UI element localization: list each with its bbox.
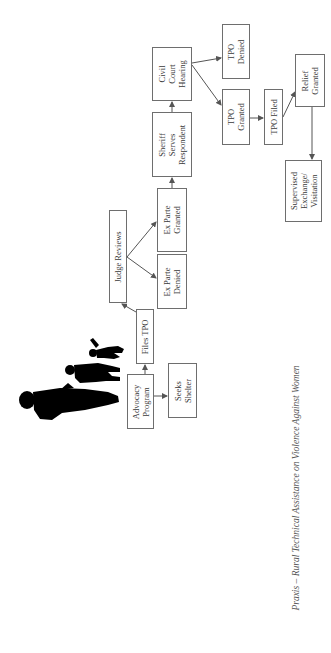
arrow-civil-court-hearing-to-tpo-granted (192, 65, 221, 105)
node-ex-parte-denied: Ex Parte Denied (157, 254, 187, 309)
node-label: TPO Filed (269, 99, 279, 135)
node-label: TPO Granted (226, 103, 246, 130)
flowchart-canvas: Advocacy ProgramSeeks ShelterFiles TPOJu… (0, 0, 331, 653)
node-label: TPO Denied (226, 39, 246, 64)
node-label: Sheriff Serves Respondent (157, 124, 187, 164)
arrow-tpo-filed-to-relief-granted (283, 92, 295, 117)
arrow-civil-court-hearing-to-tpo-denied (192, 58, 221, 63)
node-label: Files TPO (140, 319, 150, 354)
node-label: Ex Parte Granted (162, 205, 182, 234)
node-relief-granted: Relief Granted (295, 54, 325, 107)
node-files-tpo: Files TPO (136, 309, 154, 364)
arrow-judge-reviews-to-ex-parte-granted (127, 222, 156, 257)
arrow-judge-reviews-to-ex-parte-denied (127, 257, 156, 278)
source-caption: Praxis – Rural Technical Assistance on V… (291, 365, 301, 610)
node-judge-reviews: Judge Reviews (109, 210, 127, 303)
node-sheriff-serves-respondent: Sheriff Serves Respondent (152, 112, 192, 177)
node-label: Ex Parte Denied (162, 267, 182, 296)
node-advocacy-program: Advocacy Program (127, 374, 154, 429)
arrow-files-tpo-to-judge-reviews (122, 304, 136, 312)
node-label: Advocacy Program (131, 384, 151, 418)
node-ex-parte-granted: Ex Parte Granted (157, 188, 187, 252)
node-supervised-exchange-visitation: Supervised Exchange/ Visitation (285, 160, 322, 222)
node-label: Civil Court Hearing (157, 60, 187, 87)
node-civil-court-hearing: Civil Court Hearing (152, 47, 192, 101)
node-tpo-granted: TPO Granted (222, 89, 250, 145)
node-tpo-denied: TPO Denied (222, 24, 250, 79)
node-label: Judge Reviews (113, 231, 123, 282)
node-label: Seeks Shelter (173, 378, 193, 402)
node-seeks-shelter: Seeks Shelter (168, 363, 197, 418)
node-label: Supervised Exchange/ Visitation (289, 172, 319, 210)
node-tpo-filed: TPO Filed (264, 89, 283, 145)
node-label: Relief Granted (300, 67, 320, 94)
